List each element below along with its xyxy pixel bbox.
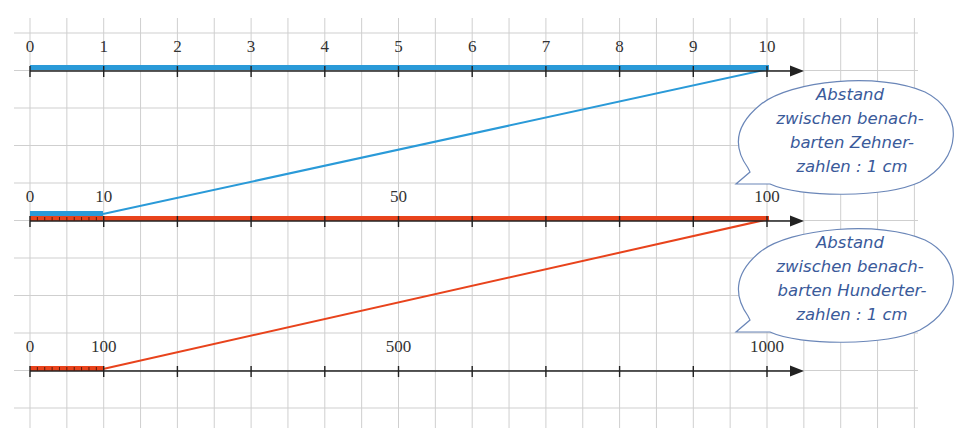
arrowhead-icon [790,366,804,377]
tick-label: 9 [689,37,698,56]
tick-label: 5 [394,37,403,56]
number-line-0-100: 01050100 [26,187,804,227]
tick-label: 100 [754,187,780,206]
tick-label: 0 [26,337,35,356]
blue-segment-0-10 [30,211,103,216]
bubble-text-line: barten Hunderter- [778,281,927,300]
tick-label: 50 [390,187,407,206]
tick-label: 8 [615,37,624,56]
tick-label: 6 [468,37,477,56]
tick-label: 2 [173,37,182,56]
number-line-diagram: 012345678910 01050100 01005001000 Abstan… [0,0,965,436]
tick-label: 500 [386,337,412,356]
blue-connector-line [103,69,769,214]
orange-connector-line [103,219,769,369]
bubble-text-line: zahlen : 1 cm [795,157,907,176]
blue-highlight-bar [30,65,769,70]
tick-label: 3 [247,37,256,56]
bubble-text-line: Abstand [815,85,884,104]
tick-label: 1 [99,37,108,56]
tick-label: 7 [542,37,551,56]
number-line-0-10: 012345678910 [26,37,804,77]
number-line-0-1000: 01005001000 [26,337,804,377]
tick-label: 0 [26,37,35,56]
arrowhead-icon [790,66,804,77]
speech-bubble-hunderter: Abstand zwischen benach- barten Hunderte… [736,229,953,343]
speech-bubble-zehner: Abstand zwischen benach- barten Zehner- … [736,81,953,195]
tick-label: 4 [321,37,330,56]
tick-label: 100 [91,337,117,356]
arrowhead-icon [790,216,804,227]
bubble-text-line: zwischen benach- [775,257,923,276]
bubble-text-line: barten Zehner- [790,133,914,152]
bubble-text-line: zwischen benach- [775,109,923,128]
tick-label: 10 [95,187,112,206]
tick-label: 10 [759,37,776,56]
bubble-text-line: zahlen : 1 cm [795,305,907,324]
tick-label: 0 [26,187,35,206]
bubble-text-line: Abstand [815,233,884,252]
grid [14,18,918,428]
tick-label: 1000 [750,337,784,356]
